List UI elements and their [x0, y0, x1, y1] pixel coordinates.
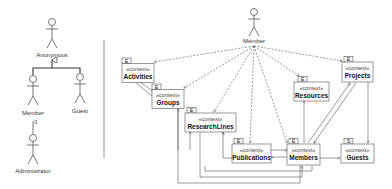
actor-administrator-icon: [27, 135, 39, 165]
context-activities[interactable]: E «context» Activities: [122, 58, 154, 83]
tab-label: E: [190, 107, 194, 113]
tab-label: E: [347, 56, 351, 62]
stereotype: «context»: [240, 147, 264, 153]
stereotype: «context»: [292, 147, 316, 153]
context-name: Groups: [156, 99, 179, 107]
context-publications[interactable]: E «context» Publications: [232, 138, 271, 163]
context-guests[interactable]: S «context» Guests: [341, 138, 374, 163]
context-researchlines[interactable]: E «context» ResearchLines: [185, 107, 236, 132]
context-groups[interactable]: E «context» Groups: [152, 84, 184, 109]
diagram-canvas: Anonymous Member Guest Administrator Mem…: [0, 0, 392, 189]
context-name: Members: [289, 154, 318, 161]
tab-label: E: [237, 138, 241, 144]
context-name: Guests: [346, 154, 368, 161]
tab-label: S: [347, 138, 351, 144]
context-resources[interactable]: E «context» Resources: [294, 76, 329, 101]
stereotype: «context»: [300, 85, 324, 91]
context-members[interactable]: E «context» Members: [287, 138, 320, 165]
context-name: ResearchLines: [187, 123, 234, 130]
context-name: Publications: [232, 154, 271, 161]
context-name: Resources: [295, 92, 329, 99]
actor-administrator-label: Administrator: [15, 168, 50, 174]
actor-hierarchy: [27, 19, 86, 165]
actor-anonymous-label: Anonymous: [36, 52, 68, 58]
context-actor-member-label: Member: [243, 38, 265, 44]
tab-label: E: [125, 58, 129, 64]
actor-member-label: Member: [22, 110, 44, 116]
tab-label: E: [301, 76, 305, 82]
context-name: Activities: [124, 73, 153, 80]
context-name: Projects: [345, 72, 371, 80]
context-projects[interactable]: E «context» Projects: [342, 56, 373, 82]
stereotype: «context»: [199, 116, 223, 122]
stereotype: «context»: [126, 66, 150, 72]
actor-guest-icon: [74, 74, 86, 104]
context-actor-member-icon: [248, 9, 260, 37]
stereotype: «context»: [346, 147, 370, 153]
stereotype: «context»: [346, 65, 370, 71]
tab-label: E: [155, 84, 159, 90]
actor-anonymous-icon: [46, 19, 58, 49]
tab-label: E: [292, 138, 296, 144]
actor-guest-label: Guest: [72, 108, 88, 114]
stereotype: «context»: [156, 92, 180, 98]
actor-member-icon: [27, 76, 39, 106]
